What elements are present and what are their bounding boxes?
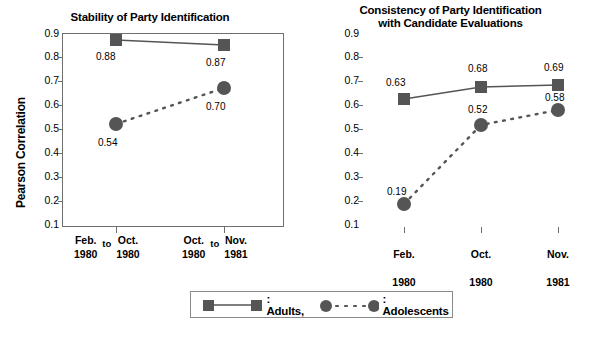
adolescents-marker-right-1	[397, 197, 411, 211]
x-category-right-3: Nov. 1981	[533, 233, 583, 303]
legend-entry-adolescents: : Adolescents	[319, 293, 452, 317]
data-label-adolescents-right-1: 0.19	[387, 187, 406, 197]
adults-marker-left-2	[218, 39, 230, 51]
x-category-left-1: Feb. 1980 to Oct. 1980	[74, 233, 140, 261]
x-category-left-2-to-month: Nov.	[224, 233, 247, 247]
data-label-adults-right-3: 0.69	[544, 63, 563, 73]
data-label-adults-left-1: 0.88	[96, 52, 115, 62]
x-category-right-2-year: 1980	[456, 275, 506, 289]
legend-swatch-adults-icon	[201, 297, 262, 313]
x-category-left-2-from-month: Oct.	[182, 233, 205, 247]
chart-legend: : Adults, : Adolescents	[190, 291, 453, 318]
adolescents-marker-left-2	[217, 81, 231, 95]
x-category-right-3-year: 1981	[533, 275, 583, 289]
x-category-right-2: Oct. 1980	[456, 233, 506, 303]
legend-entry-adults: : Adults,	[201, 293, 308, 317]
x-category-left-2: Oct. 1980 to Nov. 1981	[182, 233, 248, 261]
x-category-left-1-from-month: Feb.	[74, 233, 97, 247]
chart-panel-consistency: Consistency of Party Identification with…	[300, 0, 601, 285]
data-label-adults-right-2: 0.68	[468, 64, 487, 74]
adults-marker-right-3	[552, 79, 564, 91]
data-label-adults-left-2: 0.87	[206, 58, 225, 68]
x-category-left-2-to-year: 1981	[224, 247, 247, 261]
x-category-right-3-month: Nov.	[533, 247, 583, 261]
x-category-right-1-year: 1980	[379, 275, 429, 289]
x-category-left-2-connector: to	[205, 233, 224, 251]
legend-label-adolescents: : Adolescents	[379, 293, 452, 317]
adults-marker-left-1	[110, 34, 122, 46]
data-overlay-left	[0, 0, 300, 285]
legend-label-adults: : Adults,	[262, 293, 308, 317]
x-category-left-1-connector: to	[97, 233, 116, 251]
x-category-right-2-month: Oct.	[456, 247, 506, 261]
data-label-adolescents-left-1: 0.54	[98, 138, 117, 148]
data-label-adults-right-1: 0.63	[386, 78, 405, 88]
x-category-left-1-from-year: 1980	[74, 247, 97, 261]
adults-line-left	[116, 40, 224, 45]
adolescents-marker-left-1	[109, 117, 123, 131]
data-label-adolescents-left-2: 0.70	[206, 102, 225, 112]
adults-marker-right-2	[475, 81, 487, 93]
x-category-right-1-month: Feb.	[379, 247, 429, 261]
x-category-left-2-from-year: 1980	[182, 247, 205, 261]
x-category-left-1-to-month: Oct.	[116, 233, 139, 247]
data-label-adolescents-right-3: 0.58	[545, 93, 564, 103]
data-label-adolescents-right-2: 0.52	[468, 105, 487, 115]
adolescents-marker-right-3	[551, 103, 565, 117]
chart-panel-stability: Stability of Party Identification Pearso…	[0, 0, 300, 285]
legend-swatch-adolescents-icon	[319, 297, 379, 313]
x-category-left-1-to-year: 1980	[116, 247, 139, 261]
adolescents-marker-right-2	[474, 118, 488, 132]
adults-marker-right-1	[398, 93, 410, 105]
